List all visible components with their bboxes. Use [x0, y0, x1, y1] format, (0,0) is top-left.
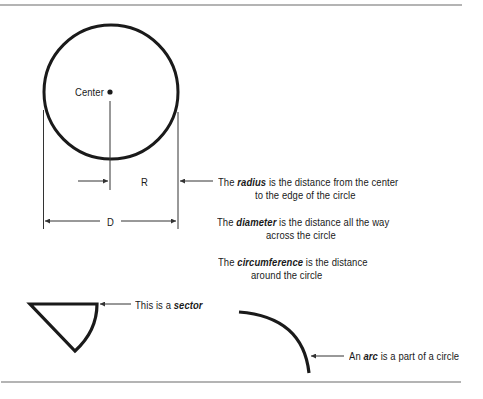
- radius-term: radius: [237, 176, 266, 188]
- circumference-term: circumference: [237, 256, 303, 268]
- sector-term: sector: [174, 299, 203, 311]
- arc-prefix: An: [349, 350, 361, 362]
- diameter-prefix: The: [217, 216, 234, 228]
- arc-label: An arc is a part of a circle: [349, 349, 459, 363]
- circumference-line1: is the distance: [306, 256, 368, 268]
- diameter-line1: is the distance all the way: [279, 216, 389, 228]
- center-label: Center: [75, 85, 104, 99]
- diameter-definition: The diameter is the distance all the way: [217, 215, 389, 229]
- diameter-marker-label: D: [107, 215, 114, 229]
- diameter-term: diameter: [236, 216, 276, 228]
- circumference-prefix: The: [218, 256, 235, 268]
- sector-label: This is a sector: [135, 298, 203, 312]
- radius-definition-line2: to the edge of the circle: [255, 188, 355, 202]
- circle-diagram: [0, 0, 483, 399]
- radius-line1: is the distance from the center: [269, 176, 398, 188]
- radius-prefix: The: [218, 176, 235, 188]
- arc-shape: [239, 312, 309, 373]
- arc-term: arc: [363, 350, 377, 362]
- radius-marker-label: R: [141, 175, 148, 189]
- diameter-definition-line2: across the circle: [266, 228, 336, 242]
- circumference-definition: The circumference is the distance: [218, 255, 368, 269]
- sector-prefix: This is a: [135, 299, 171, 311]
- center-dot: [107, 89, 112, 94]
- radius-definition: The radius is the distance from the cent…: [218, 175, 398, 189]
- circumference-definition-line2: around the circle: [251, 268, 322, 282]
- arc-rest: is a part of a circle: [381, 350, 460, 362]
- sector-shape: [30, 304, 97, 351]
